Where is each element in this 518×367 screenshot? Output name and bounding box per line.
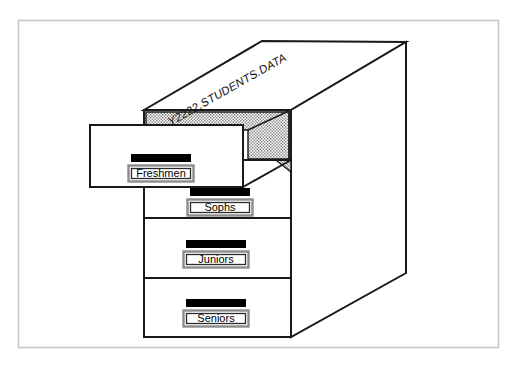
drawer-freshmen[interactable]: Freshmen <box>90 125 243 187</box>
drawer-label-seniors: Seniors <box>197 312 235 324</box>
drawer-handle-juniors[interactable] <box>186 240 246 248</box>
drawer-handle-sophs[interactable] <box>190 188 250 196</box>
drawer-label-sophs: Sophs <box>204 201 236 213</box>
drawer-juniors[interactable]: Juniors <box>184 240 249 268</box>
file-cabinet-diagram: Y2222.STUDENTS.DATA Sophs Juniors Senior… <box>0 0 518 367</box>
drawer-sophs[interactable]: Sophs <box>188 188 253 216</box>
drawer-label-juniors: Juniors <box>198 253 234 265</box>
drawer-seniors[interactable]: Seniors <box>184 299 249 327</box>
cabinet-illustration: Y2222.STUDENTS.DATA Sophs Juniors Senior… <box>0 0 518 367</box>
drawer-handle-freshmen[interactable] <box>131 154 191 162</box>
drawer-label-freshmen: Freshmen <box>136 167 186 179</box>
drawer-handle-seniors[interactable] <box>186 299 246 307</box>
